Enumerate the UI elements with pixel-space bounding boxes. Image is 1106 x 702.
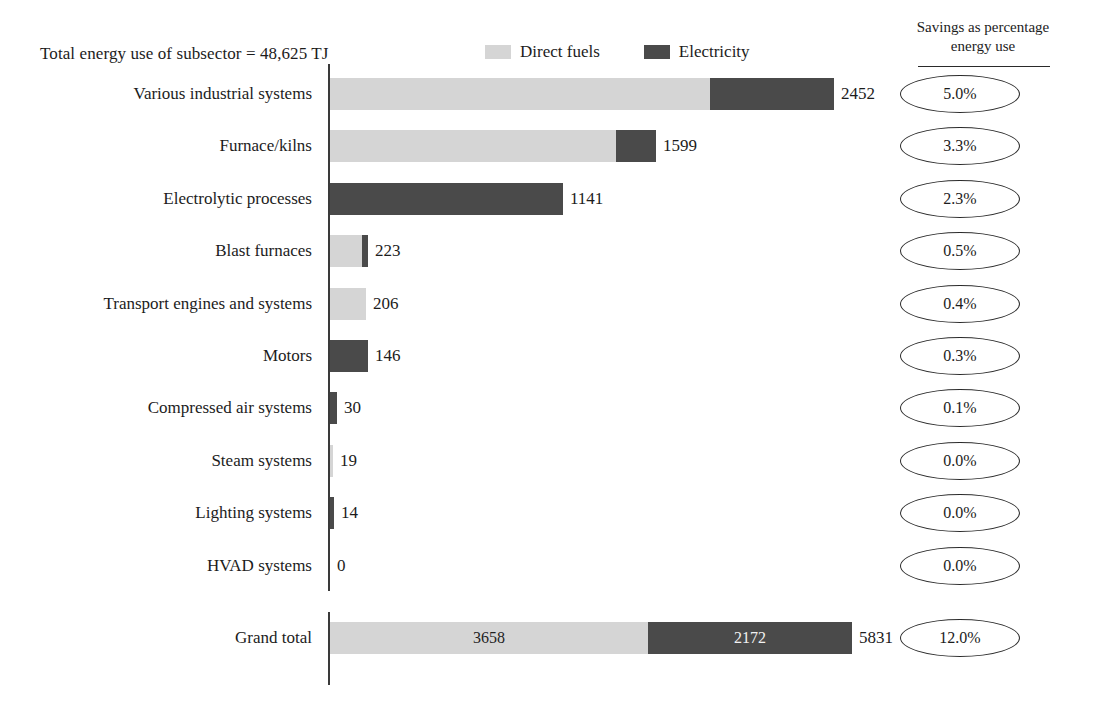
bar-segment-direct-fuels[interactable]: [330, 445, 333, 477]
bar-total-value: 146: [375, 346, 401, 366]
savings-cell: 5.0%: [900, 68, 1090, 120]
bar-total-value: 206: [373, 294, 399, 314]
savings-column-header: Savings as percentage energy use: [888, 18, 1078, 56]
grand-total-row: Grand total36582172583112.0%: [0, 612, 1106, 664]
bar-segment-direct-fuels[interactable]: [330, 288, 366, 320]
bar-total-value: 1141: [570, 189, 603, 209]
row-category-label: Compressed air systems: [0, 382, 312, 434]
bar-segment-electricity[interactable]: [330, 392, 337, 424]
row-category-label: Electrolytic processes: [0, 173, 312, 225]
bar-segment-value-electricity: 2172: [734, 629, 766, 647]
savings-cell: 0.0%: [900, 435, 1090, 487]
chart-row: Various industrial systems24525.0%: [0, 68, 1106, 120]
savings-percentage-badge: 3.3%: [900, 127, 1020, 165]
bar-total-value: 1599: [663, 136, 697, 156]
grand-total-label: Grand total: [0, 612, 312, 664]
stacked-bar[interactable]: [330, 445, 333, 477]
savings-percentage-badge: 0.0%: [900, 494, 1020, 532]
bar-segment-electricity[interactable]: [330, 183, 563, 215]
bar-total-value: 2452: [841, 84, 875, 104]
savings-cell: 0.3%: [900, 330, 1090, 382]
stacked-bar[interactable]: [330, 288, 366, 320]
savings-percentage-badge: 0.1%: [900, 389, 1020, 427]
bar-total-value: 0: [337, 556, 346, 576]
bar-segment-direct-fuels[interactable]: [330, 235, 362, 267]
bar-area: 1141: [330, 173, 603, 225]
savings-cell: 0.0%: [900, 540, 1090, 592]
bar-total-value: 30: [344, 398, 361, 418]
chart-row: HVAD systems00.0%: [0, 540, 1106, 592]
chart-row: Steam systems190.0%: [0, 435, 1106, 487]
stacked-bar[interactable]: [330, 130, 656, 162]
savings-percentage-badge: 5.0%: [900, 75, 1020, 113]
legend-item-direct-fuels: Direct fuels: [485, 42, 600, 62]
legend-item-electricity: Electricity: [644, 42, 750, 62]
stacked-bar[interactable]: [330, 340, 368, 372]
bar-area: 1599: [330, 120, 697, 172]
savings-cell: 0.1%: [900, 382, 1090, 434]
bar-area: 14: [330, 487, 358, 539]
savings-header-divider: [918, 66, 1050, 67]
bar-segment-direct-fuels[interactable]: [330, 130, 616, 162]
row-category-label: Lighting systems: [0, 487, 312, 539]
savings-percentage-badge: 12.0%: [900, 619, 1020, 657]
page-title: Total energy use of subsector = 48,625 T…: [40, 44, 329, 64]
row-category-label: HVAD systems: [0, 540, 312, 592]
savings-percentage-badge: 0.3%: [900, 337, 1020, 375]
stacked-bar[interactable]: [330, 183, 563, 215]
chart-row: Motors1460.3%: [0, 330, 1106, 382]
savings-header-line-2: energy use: [888, 37, 1078, 56]
stacked-bar[interactable]: [330, 78, 834, 110]
bar-area: 0: [330, 540, 346, 592]
stacked-bar[interactable]: [330, 392, 337, 424]
savings-cell: 0.0%: [900, 487, 1090, 539]
stacked-bar[interactable]: [330, 235, 368, 267]
chart-row: Furnace/kilns15993.3%: [0, 120, 1106, 172]
savings-cell: 2.3%: [900, 173, 1090, 225]
row-category-label: Furnace/kilns: [0, 120, 312, 172]
bar-total-value: 5831: [859, 628, 893, 648]
row-category-label: Motors: [0, 330, 312, 382]
legend-swatch-electricity-icon: [644, 45, 670, 59]
bar-area: 365821725831: [330, 612, 893, 664]
bar-area: 146: [330, 330, 401, 382]
chart-row: Blast furnaces2230.5%: [0, 225, 1106, 277]
bar-total-value: 223: [375, 241, 401, 261]
bar-area: 223: [330, 225, 401, 277]
bar-area: 30: [330, 382, 361, 434]
chart-row: Compressed air systems300.1%: [0, 382, 1106, 434]
savings-cell: 3.3%: [900, 120, 1090, 172]
bar-area: 19: [330, 435, 357, 487]
bar-area: 206: [330, 278, 399, 330]
savings-cell: 12.0%: [900, 612, 1090, 664]
savings-cell: 0.5%: [900, 225, 1090, 277]
row-category-label: Transport engines and systems: [0, 278, 312, 330]
chart-row: Electrolytic processes11412.3%: [0, 173, 1106, 225]
legend: Direct fuels Electricity: [485, 42, 750, 62]
bar-segment-direct-fuels[interactable]: 3658: [330, 622, 648, 654]
bar-segment-electricity[interactable]: [330, 497, 334, 529]
row-category-label: Steam systems: [0, 435, 312, 487]
bar-segment-electricity[interactable]: [330, 340, 368, 372]
row-category-label: Various industrial systems: [0, 68, 312, 120]
bar-area: 2452: [330, 68, 875, 120]
savings-cell: 0.4%: [900, 278, 1090, 330]
savings-header-line-1: Savings as percentage: [888, 18, 1078, 37]
chart-row: Lighting systems140.0%: [0, 487, 1106, 539]
chart-row: Transport engines and systems2060.4%: [0, 278, 1106, 330]
bar-segment-electricity[interactable]: 2172: [648, 622, 852, 654]
stacked-bar[interactable]: [330, 497, 334, 529]
bar-segment-electricity[interactable]: [616, 130, 656, 162]
legend-label-electricity: Electricity: [679, 42, 750, 62]
row-category-label: Blast furnaces: [0, 225, 312, 277]
legend-label-direct-fuels: Direct fuels: [520, 42, 600, 62]
bar-segment-direct-fuels[interactable]: [330, 78, 710, 110]
bar-total-value: 19: [340, 451, 357, 471]
savings-percentage-badge: 2.3%: [900, 180, 1020, 218]
legend-swatch-direct-fuels-icon: [485, 45, 511, 59]
chart-page: { "title": "Total energy use of subsecto…: [0, 0, 1106, 702]
bar-segment-value-direct-fuels: 3658: [473, 629, 505, 647]
bar-segment-electricity[interactable]: [710, 78, 834, 110]
stacked-bar[interactable]: 36582172: [330, 622, 852, 654]
bar-segment-electricity[interactable]: [362, 235, 368, 267]
